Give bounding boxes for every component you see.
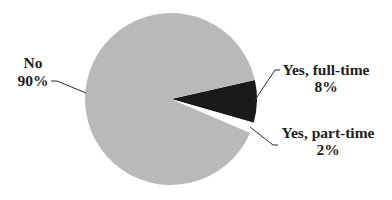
leader-line-full-time [253, 70, 280, 103]
label-part-time-name: Yes, part-time [282, 124, 375, 141]
leader-line-part-time [250, 127, 278, 145]
pie-slices [85, 13, 257, 185]
pie-chart: No 90% Yes, full-time 8% Yes, part-time … [0, 0, 392, 200]
leader-line-no [51, 81, 86, 93]
label-no-percent: 90% [18, 72, 49, 89]
label-full-time-name: Yes, full-time [283, 61, 370, 78]
label-full-time-percent: 8% [314, 78, 337, 95]
label-part-time-percent: 2% [316, 141, 339, 158]
label-no-name: No [24, 54, 43, 71]
